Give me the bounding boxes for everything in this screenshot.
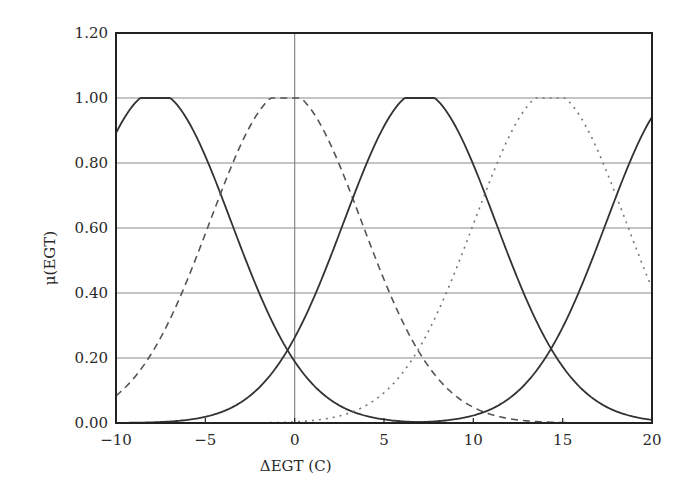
x-tick-label: −5: [194, 431, 216, 449]
y-tick-label: 0.40: [75, 284, 108, 302]
y-axis-label: μ(EGT): [41, 231, 59, 285]
x-axis-label: ΔEGT (C): [260, 457, 332, 475]
membership-function-chart: −10−505101520 0.000.200.400.600.801.001.…: [0, 0, 699, 500]
x-tick-label: −10: [100, 431, 132, 449]
x-tick-label: 20: [642, 431, 661, 449]
curve-mf4: [116, 98, 652, 423]
x-tick-label: 0: [290, 431, 300, 449]
curve-mf1: [116, 98, 652, 423]
x-tick-label: 10: [464, 431, 483, 449]
y-axis-ticks: 0.000.200.400.600.801.001.20: [75, 24, 108, 432]
curve-mf3: [116, 98, 652, 423]
y-tick-label: 0.00: [75, 414, 108, 432]
y-tick-label: 1.00: [75, 89, 108, 107]
membership-curves: [116, 98, 652, 423]
y-tick-label: 0.80: [75, 154, 108, 172]
y-tick-label: 0.60: [75, 219, 108, 237]
grid-lines: [116, 33, 652, 423]
y-tick-label: 0.20: [75, 349, 108, 367]
curve-mf2: [116, 98, 652, 423]
x-tick-label: 5: [379, 431, 389, 449]
x-tick-label: 15: [553, 431, 572, 449]
y-tick-label: 1.20: [75, 24, 108, 42]
